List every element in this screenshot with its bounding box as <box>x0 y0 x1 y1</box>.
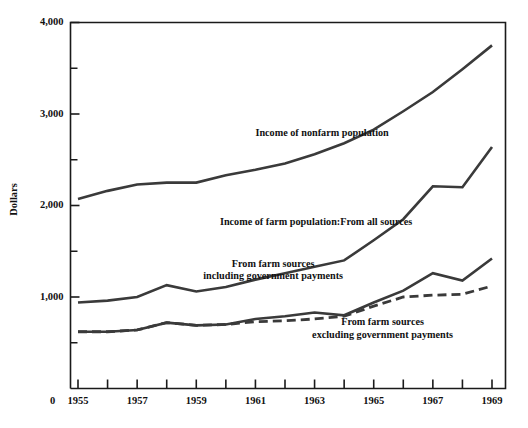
chart-canvas: 1,0002,0003,0004,000 1955195719591961196… <box>0 0 528 428</box>
series-annotation-0: Income of nonfarm population <box>255 127 389 138</box>
series-annotation-3: excluding government payments <box>312 329 453 340</box>
x-tick-label: 1957 <box>127 395 148 406</box>
axis-titles: Dollars <box>8 183 19 216</box>
x-tick-label: 1967 <box>422 395 443 406</box>
series-annotation-2: From farm sources <box>232 258 315 269</box>
x-axis-zero-label: 0 <box>50 395 55 406</box>
series-annotation-3: From farm sources <box>341 316 424 327</box>
y-tick-label: 1,000 <box>40 291 64 302</box>
y-axis-title: Dollars <box>8 183 19 216</box>
x-tick-label: 1955 <box>68 395 89 406</box>
y-tick-label: 2,000 <box>40 199 64 210</box>
x-tick-label: 1963 <box>304 395 325 406</box>
y-tick-label: 4,000 <box>40 16 64 27</box>
x-tick-label: 1959 <box>186 395 207 406</box>
y-tick-label: 3,000 <box>40 108 64 119</box>
series-annotation-2: including government payments <box>203 270 343 281</box>
x-tick-label: 1965 <box>363 395 384 406</box>
x-tick-label: 1961 <box>245 395 266 406</box>
income-line-chart: 1,0002,0003,0004,000 1955195719591961196… <box>0 0 528 428</box>
chart-background <box>0 0 528 428</box>
x-tick-label: 1969 <box>482 395 503 406</box>
series-annotation-1: Income of farm population:From all sourc… <box>220 216 412 227</box>
